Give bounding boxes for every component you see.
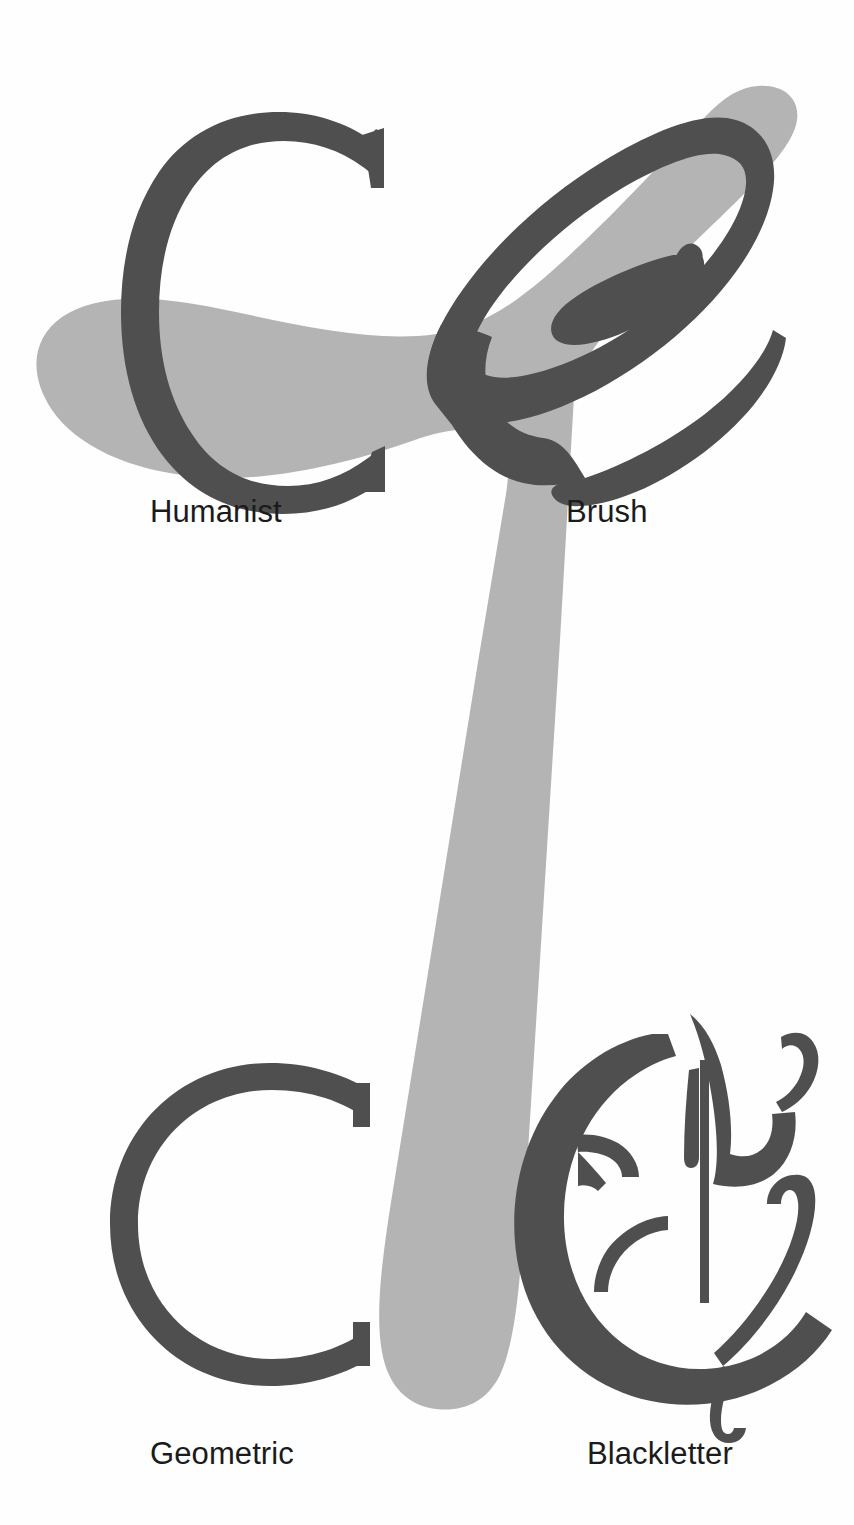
geometric-c-upper-terminal — [353, 1083, 370, 1127]
blackletter-c-glyph — [514, 1014, 832, 1443]
geometric-c-lower-terminal — [353, 1322, 370, 1366]
specimen-label-geometric: Geometric — [150, 1438, 294, 1469]
specimen-label-blackletter: Blackletter — [587, 1438, 733, 1469]
blackletter-c-inner-hook — [576, 1134, 639, 1191]
type-specimen-page: Humanist Brush Geometric Blackletter — [0, 0, 854, 1525]
specimen-artwork-canvas — [0, 0, 854, 1525]
specimen-label-humanist: Humanist — [150, 496, 282, 527]
blackletter-c-inner-lens — [594, 1216, 668, 1292]
geometric-c-glyph — [110, 1063, 370, 1386]
specimen-label-brush: Brush — [566, 496, 647, 527]
blackletter-c-inner-spike — [684, 1068, 699, 1168]
blackletter-c-bowl — [514, 1034, 832, 1405]
blackletter-c-top-curl — [776, 1033, 818, 1112]
geometric-c-path — [110, 1063, 370, 1386]
blackletter-c-inner-stem — [700, 1060, 709, 1303]
